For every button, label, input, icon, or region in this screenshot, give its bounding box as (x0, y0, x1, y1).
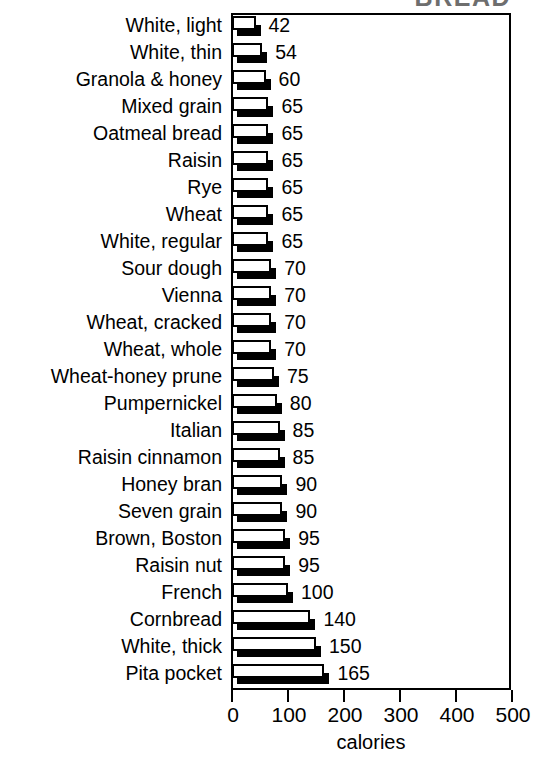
category-label: Italian (0, 418, 222, 445)
bar (232, 475, 288, 497)
bar-value-label: 70 (284, 256, 306, 283)
category-label: White, regular (0, 229, 222, 256)
bar-value-label: 65 (281, 94, 303, 121)
bar-face (232, 421, 280, 435)
bar (232, 16, 262, 38)
bar-face (232, 340, 271, 354)
bar-row: Brown, Boston95 (0, 526, 540, 553)
bar (232, 394, 283, 416)
bar-value-label: 90 (295, 472, 317, 499)
x-axis-tick-label: 300 (371, 703, 431, 727)
bar-value-label: 65 (281, 121, 303, 148)
bar-value-label: 75 (287, 364, 309, 391)
bar-face (232, 502, 282, 516)
bar-face (232, 178, 268, 192)
category-label: Wheat (0, 202, 222, 229)
x-axis-tick-label: 100 (259, 703, 319, 727)
bar-value-label: 85 (293, 445, 315, 472)
bar-row: White, regular65 (0, 229, 540, 256)
bar-row: Wheat65 (0, 202, 540, 229)
bar (232, 43, 268, 65)
bar (232, 556, 291, 578)
bar (232, 178, 274, 200)
category-label: White, light (0, 13, 222, 40)
category-label: Seven grain (0, 499, 222, 526)
x-axis-tick (511, 690, 513, 702)
x-axis-tick-label: 0 (203, 703, 263, 727)
bar (232, 502, 288, 524)
bar-row: Rye65 (0, 175, 540, 202)
bar-face (232, 637, 316, 651)
category-label: Mixed grain (0, 94, 222, 121)
bar (232, 205, 274, 227)
bar-value-label: 140 (323, 607, 356, 634)
bar-face (232, 583, 288, 597)
bar (232, 583, 294, 605)
category-label: Raisin nut (0, 553, 222, 580)
bar-face (232, 16, 256, 30)
bar-row: White, thin54 (0, 40, 540, 67)
x-axis-tick (455, 690, 457, 702)
bar-face (232, 43, 262, 57)
bar-row: Vienna70 (0, 283, 540, 310)
bar-value-label: 70 (284, 310, 306, 337)
bar (232, 664, 330, 686)
bar (232, 448, 286, 470)
bar (232, 529, 291, 551)
bar-row: French100 (0, 580, 540, 607)
x-axis-tick (287, 690, 289, 702)
category-label: Honey bran (0, 472, 222, 499)
bar-rows-container: White, light42White, thin54Granola & hon… (0, 13, 540, 690)
category-label: White, thin (0, 40, 222, 67)
bar-face (232, 205, 268, 219)
bar-row: Oatmeal bread65 (0, 121, 540, 148)
category-label: Raisin cinnamon (0, 445, 222, 472)
x-axis-title: calories (231, 731, 511, 754)
bar-face (232, 151, 268, 165)
bar-value-label: 65 (281, 148, 303, 175)
bar-value-label: 165 (337, 661, 370, 688)
category-label: Vienna (0, 283, 222, 310)
bar-face (232, 259, 271, 273)
bar-face (232, 475, 282, 489)
bar-row: Cornbread140 (0, 607, 540, 634)
bar-value-label: 70 (284, 337, 306, 364)
bar (232, 313, 277, 335)
bar-row: Wheat, cracked70 (0, 310, 540, 337)
bar-value-label: 65 (281, 229, 303, 256)
bar-face (232, 313, 271, 327)
bar (232, 70, 272, 92)
bar-face (232, 448, 280, 462)
bar-face (232, 70, 266, 84)
bar-row: Mixed grain65 (0, 94, 540, 121)
bar-value-label: 150 (329, 634, 362, 661)
x-axis-tick-label: 500 (483, 703, 540, 727)
bar-value-label: 54 (275, 40, 297, 67)
bar-value-label: 100 (301, 580, 334, 607)
bar (232, 286, 277, 308)
x-axis-tick (399, 690, 401, 702)
chart-title: BREAD (0, 0, 511, 12)
category-label: French (0, 580, 222, 607)
bar (232, 610, 316, 632)
category-label: Cornbread (0, 607, 222, 634)
bar-row: Sour dough70 (0, 256, 540, 283)
bar-row: White, light42 (0, 13, 540, 40)
category-label: Wheat, cracked (0, 310, 222, 337)
bar (232, 340, 277, 362)
category-label: Pita pocket (0, 661, 222, 688)
bar-face (232, 232, 268, 246)
bar-face (232, 610, 310, 624)
category-label: Sour dough (0, 256, 222, 283)
x-axis-tick-label: 400 (427, 703, 487, 727)
bar-face (232, 529, 285, 543)
bar (232, 421, 286, 443)
bar-row: Italian85 (0, 418, 540, 445)
bar-row: Raisin cinnamon85 (0, 445, 540, 472)
category-label: Wheat-honey prune (0, 364, 222, 391)
bar (232, 367, 280, 389)
category-label: Raisin (0, 148, 222, 175)
bar-row: Pita pocket165 (0, 661, 540, 688)
category-label: Wheat, whole (0, 337, 222, 364)
bar-face (232, 124, 268, 138)
